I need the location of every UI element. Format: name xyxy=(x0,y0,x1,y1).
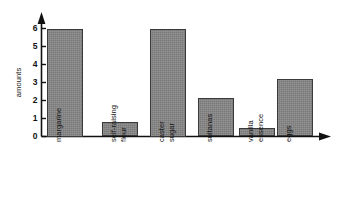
x-axis-category-label: essence xyxy=(257,113,265,141)
bar-chart: amounts 0123456 margarineself-raisingflo… xyxy=(0,0,339,198)
x-axis-category-label: margarine xyxy=(55,107,63,141)
y-axis-tick-label: 2 xyxy=(26,96,38,105)
bar xyxy=(150,29,186,137)
y-axis-tick-label: 3 xyxy=(26,78,38,87)
y-axis-tick-label: 4 xyxy=(26,60,38,69)
y-axis-title: amounts xyxy=(14,59,23,105)
y-axis-tick-label: 1 xyxy=(26,114,38,123)
y-axis-tick-label: 5 xyxy=(26,42,38,51)
x-axis-category-label: flour xyxy=(120,127,128,142)
x-axis-category-label: sultanas xyxy=(206,113,214,141)
y-axis-tick-label: 0 xyxy=(26,132,38,141)
x-axis-category-label: self-raising xyxy=(110,105,118,142)
x-axis-category-label: sugar xyxy=(168,122,176,141)
bar xyxy=(277,79,313,137)
y-axis-tick-label: 6 xyxy=(26,24,38,33)
x-axis-arrow-icon xyxy=(319,133,331,141)
x-axis-category-label: caster xyxy=(158,121,166,142)
bar xyxy=(47,29,83,137)
bar xyxy=(198,98,234,137)
y-axis-arrow-icon xyxy=(38,12,46,24)
x-axis-category-label: vanilla xyxy=(247,120,255,142)
x-axis-category-label: eggs xyxy=(285,125,293,141)
